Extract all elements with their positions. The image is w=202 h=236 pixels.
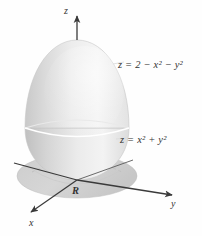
region-label-r: R bbox=[72, 185, 79, 196]
x-axis-label: x bbox=[29, 217, 34, 228]
specular-highlight bbox=[44, 46, 124, 138]
upper-paraboloid-surface bbox=[25, 40, 129, 138]
z-axis-label: z bbox=[64, 5, 68, 16]
equation-label-upper-paraboloid: z = 2 − x² − y² bbox=[118, 59, 183, 70]
figure-container: z = 2 − x² − y² z = x² + y² z y x R bbox=[0, 0, 202, 236]
y-axis-label: y bbox=[171, 198, 176, 209]
equation-label-lower-paraboloid: z = x² + y² bbox=[120, 134, 167, 145]
